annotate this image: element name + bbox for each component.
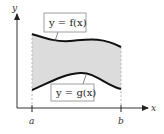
- f-label-text: y = f(x): [48, 17, 87, 28]
- g-label-leader: [83, 75, 86, 84]
- area-between-curves-diagram: y x a b y = f(x) y = g(x): [0, 0, 164, 134]
- bound-label-b: b: [118, 116, 124, 126]
- y-axis-label: y: [11, 3, 18, 13]
- x-axis-label: x: [151, 103, 156, 113]
- g-label-text: y = g(x): [55, 87, 96, 98]
- bound-label-a: a: [29, 116, 34, 126]
